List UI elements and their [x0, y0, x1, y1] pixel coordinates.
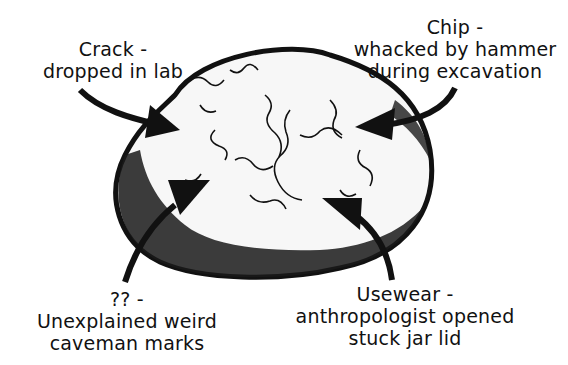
annotation-chip-line1: whacked by hammer — [345, 38, 565, 60]
annotation-unexplained-line2: caveman marks — [22, 332, 232, 354]
annotation-crack-title: Crack - — [18, 38, 208, 60]
annotation-chip-line2: during excavation — [345, 60, 565, 82]
annotation-crack: Crack - dropped in lab — [18, 38, 208, 82]
annotation-unexplained: ?? - Unexplained weird caveman marks — [22, 288, 232, 354]
annotation-crack-description: dropped in lab — [18, 60, 208, 82]
annotation-chip-title: Chip - — [345, 16, 565, 38]
annotation-usewear-line2: stuck jar lid — [290, 327, 520, 349]
annotation-usewear-title: Usewear - — [290, 283, 520, 305]
annotation-unexplained-line1: Unexplained weird — [22, 310, 232, 332]
annotation-usewear: Usewear - anthropologist opened stuck ja… — [290, 283, 520, 349]
annotation-usewear-line1: anthropologist opened — [290, 305, 520, 327]
annotation-chip: Chip - whacked by hammer during excavati… — [345, 16, 565, 82]
annotation-unexplained-title: ?? - — [22, 288, 232, 310]
